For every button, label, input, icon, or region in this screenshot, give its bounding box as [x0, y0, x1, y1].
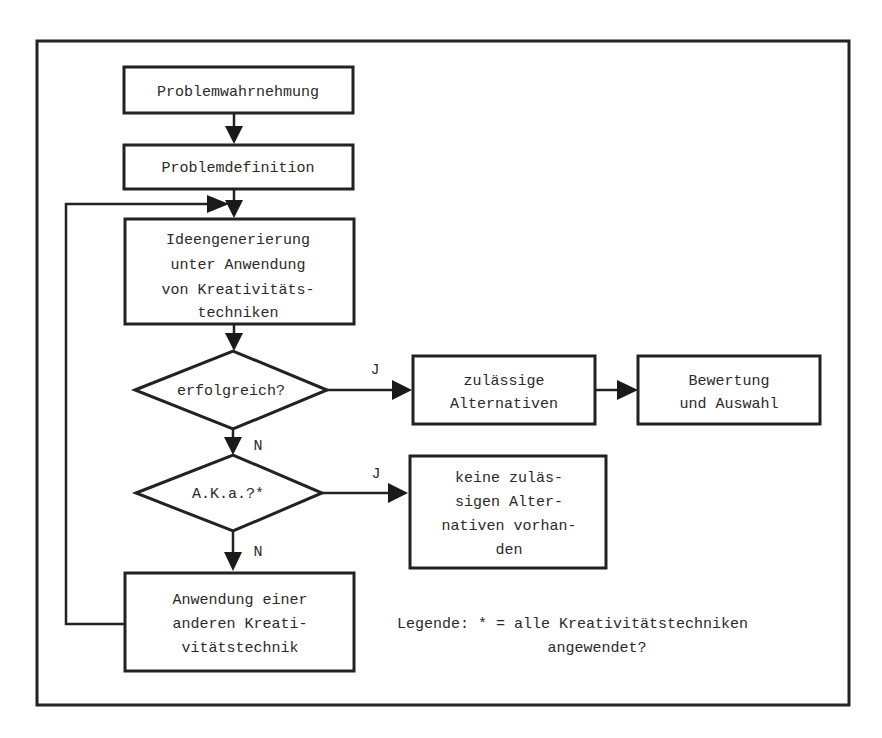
arrowhead-down-icon [224, 552, 242, 571]
decision-aka: A.K.a.?* [136, 455, 322, 531]
node-label-line-3: nativen vorhan- [441, 518, 576, 535]
arrow-alternativen-to-bewertung [595, 380, 638, 400]
arrow-aka-yes: J [322, 466, 408, 503]
arrowhead-right-icon [207, 195, 229, 213]
node-label-line-2: und Auswahl [679, 396, 778, 413]
node-label-line-1: Ideengenerierung [166, 232, 310, 249]
node-box [638, 356, 820, 424]
arrowhead-down-icon [225, 200, 243, 218]
node-label-line-4: den [495, 542, 522, 559]
edge-label-yes: J [371, 466, 380, 483]
node-problemdefinition: Problemdefinition [124, 145, 353, 189]
arrow-aka-no: N [224, 531, 263, 571]
node-label-line-3: von Kreativitäts- [161, 282, 314, 299]
node-label-line-1: keine zuläs- [455, 470, 563, 487]
node-keine-alternativen: keine zuläs- sigen Alter- nativen vorhan… [410, 456, 606, 568]
node-label: Problemdefinition [161, 160, 314, 177]
node-andere-technik: Anwendung einer anderen Kreati- vitätste… [125, 573, 354, 671]
arrow-wahrnehmung-to-definition [225, 113, 243, 144]
node-label-line-2: sigen Alter- [455, 494, 563, 511]
arrow-ideengenerierung-to-erfolgreich [225, 324, 243, 351]
edge-label-no: N [253, 438, 262, 455]
node-zulaessige-alternativen: zulässige Alternativen [413, 356, 595, 424]
node-label-line-3: vitätstechnik [181, 640, 298, 657]
arrow-erfolgreich-no: N [224, 429, 263, 455]
node-label: Problemwahrnehmung [157, 84, 319, 101]
flowchart-canvas: Problemwahrnehmung Problemdefinition Ide… [0, 0, 882, 738]
arrowhead-down-icon [225, 126, 243, 144]
node-label-line-1: Anwendung einer [172, 592, 307, 609]
legend-line-1: Legende: * = alle Kreativitätstechniken [397, 616, 748, 633]
arrowhead-right-icon [392, 380, 412, 400]
node-problemwahrnehmung: Problemwahrnehmung [124, 67, 353, 113]
node-label-line-1: zulässige [463, 373, 544, 390]
node-label-line-4: techniken [197, 305, 278, 322]
node-label-line-2: Alternativen [450, 396, 558, 413]
arrowhead-right-icon [617, 380, 638, 400]
node-label-line-2: unter Anwendung [170, 257, 305, 274]
arrow-erfolgreich-yes: J [327, 362, 412, 400]
decision-erfolgreich: erfolgreich? [135, 351, 327, 429]
node-label-line-2: anderen Kreati- [172, 616, 307, 633]
node-bewertung-auswahl: Bewertung und Auswahl [638, 356, 820, 424]
arrowhead-down-icon [224, 437, 242, 455]
arrowhead-down-icon [225, 333, 243, 351]
edge-label-yes: J [370, 362, 379, 379]
node-ideengenerierung: Ideengenerierung unter Anwendung von Kre… [125, 219, 354, 324]
node-label-line-1: Bewertung [688, 373, 769, 390]
decision-label: erfolgreich? [177, 383, 285, 400]
legend-line-2: angewendet? [547, 640, 646, 657]
edge-label-no: N [253, 544, 262, 561]
legend: Legende: * = alle Kreativitätstechniken … [397, 616, 748, 657]
decision-label: A.K.a.?* [192, 486, 264, 503]
arrowhead-right-icon [388, 483, 408, 503]
node-box [413, 356, 595, 424]
